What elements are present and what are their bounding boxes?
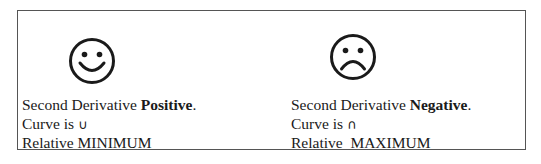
sign-label: Positive [141, 96, 193, 113]
sad-face-icon [329, 33, 377, 81]
happy-face-icon [68, 37, 116, 85]
curve-shape-line: Curve is ∪ [22, 115, 196, 135]
second-derivative-line: Second Derivative Negative. [291, 96, 471, 115]
label-text: Curve is [291, 115, 347, 132]
label-text: Second Derivative [291, 96, 410, 113]
curve-shape-line: Curve is ∩ [291, 115, 471, 135]
period: . [467, 96, 471, 113]
period: . [192, 96, 196, 113]
label-text: Second Derivative [22, 96, 141, 113]
extremum-line: Relative MAXIMUM [291, 134, 471, 153]
label-text: Curve is [22, 115, 78, 132]
second-derivative-line: Second Derivative Positive. [22, 96, 196, 115]
cap-symbol: ∩ [347, 117, 357, 132]
sign-label: Negative [410, 96, 468, 113]
cup-symbol: ∪ [78, 117, 88, 132]
extremum-line: Relative MINIMUM [22, 134, 196, 153]
